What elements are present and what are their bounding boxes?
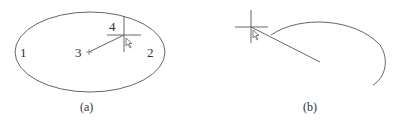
figure-a: 1 2 3 4 (a) <box>15 12 165 114</box>
label-2: 2 <box>147 45 154 60</box>
pointer-arrow-icon <box>126 38 132 48</box>
diagram-canvas: 1 2 3 4 (a) (b) <box>0 0 394 122</box>
rubber-band-line <box>251 27 320 62</box>
label-4: 4 <box>109 19 116 34</box>
label-1: 1 <box>20 45 27 60</box>
crosshair-cursor-icon <box>235 10 268 43</box>
rubber-band-line <box>89 35 124 52</box>
pointer-arrow-icon <box>253 30 259 40</box>
arc-shape <box>271 22 385 85</box>
label-3: 3 <box>75 45 82 60</box>
caption-b: (b) <box>303 100 317 114</box>
figure-b: (b) <box>235 10 385 114</box>
caption-a: (a) <box>80 100 93 114</box>
center-point-marker <box>86 49 92 55</box>
